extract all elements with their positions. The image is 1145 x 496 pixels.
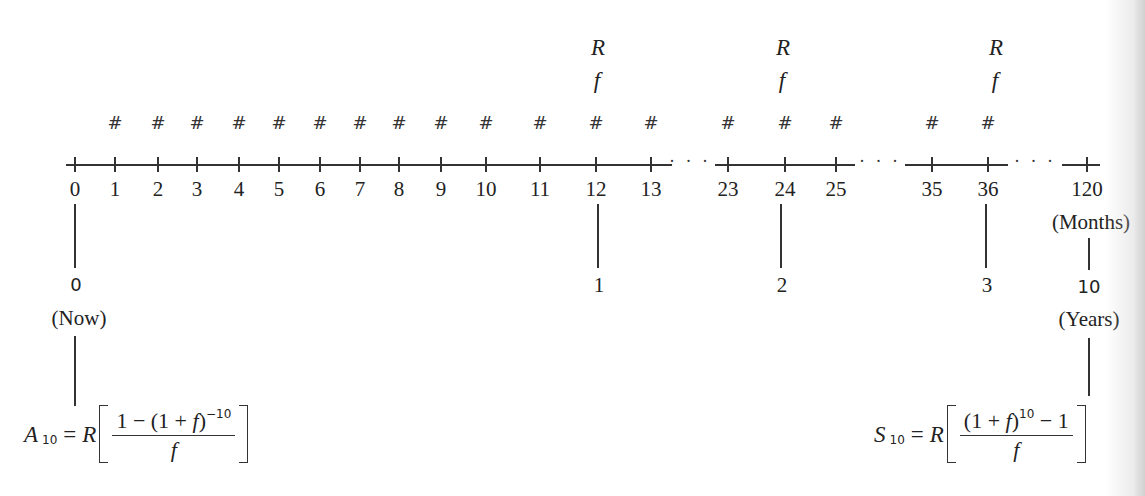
axis-tick [278,157,280,172]
payment-hash-mark: # [150,114,165,132]
month-tick-label: 7 [355,179,366,200]
fv-denominator: f [1013,436,1019,461]
axis-tick [319,157,321,172]
axis-tick [650,157,652,172]
axis-tick [238,157,240,172]
axis-tick [157,157,159,172]
year-label: 1 [594,275,605,296]
month-tick-label: 3 [192,179,203,200]
left-bracket-icon [947,405,956,463]
axis-tick [931,157,933,172]
axis-segment [905,164,1008,166]
month-tick-label: 12 [586,179,607,200]
pv-num-part-b: ) [199,408,206,433]
fv-lhs: S [874,423,886,446]
pv-exponent: −10 [206,407,231,421]
axis-tick [485,157,487,172]
axis-tick [440,157,442,172]
month-tick-label: 13 [641,179,662,200]
axis-tick [74,157,76,172]
end-caption: (Years) [1059,309,1120,330]
axis-tick [114,157,116,172]
pv-num-part-a: 1 − (1 + [116,408,192,433]
payment-hash-mark: # [532,114,547,132]
payment-hash-mark: # [777,114,792,132]
axis-tick [1086,157,1088,172]
start-caption: (Now) [52,308,107,329]
rate-marker-f: f [594,69,600,92]
fv-lhs-subscript: 10 [890,434,905,446]
axis-segment [1062,164,1100,166]
month-tick-label: 35 [922,179,943,200]
pv-fraction: 1 − (1 + f)−10 f [112,408,235,461]
pv-lhs-subscript: 10 [42,434,57,446]
month-tick-label: 2 [153,179,164,200]
month-tick-label: 36 [978,179,999,200]
axis-tick [727,157,729,172]
month-tick-label: 11 [530,179,550,200]
unit-months-label: (Months) [1052,212,1130,233]
month-tick-label: 25 [826,179,847,200]
present-value-formula: A 10 = R 1 − (1 + f)−10 f [24,405,248,463]
month-tick-label: 0 [70,179,81,200]
axis-tick [196,157,198,172]
month-tick-label: 120 [1071,179,1103,200]
ellipsis-gap: · · · [859,152,901,170]
fv-coefficient: R [930,423,944,446]
right-bracket-icon [239,405,248,463]
month-tick-label: 8 [394,179,405,200]
month-tick-label: 5 [274,179,285,200]
payment-hash-mark: # [189,114,204,132]
rate-marker-f: f [779,69,785,92]
payment-hash-mark: # [720,114,735,132]
pv-numerator: 1 − (1 + f)−10 [112,408,235,436]
year-connector [780,204,782,268]
month-tick-label: 1 [110,179,121,200]
axis-tick [987,157,989,172]
axis-tick [595,157,597,172]
end-connector-bottom [1088,338,1090,396]
pv-denominator: f [171,436,177,461]
rate-marker-R: R [591,36,605,59]
ellipsis-gap: · · · [1014,152,1056,170]
fv-num-part-b: ) [1012,408,1019,433]
pv-lhs: A [24,423,38,446]
payment-hash-mark: # [231,114,246,132]
ellipsis-gap: · · · [669,152,711,170]
fv-num-part-a: (1 + [964,408,1006,433]
payment-hash-mark: # [588,114,603,132]
month-tick-label: 4 [234,179,245,200]
month-tick-label: 24 [775,179,796,200]
end-year-label: 10 [1078,278,1101,296]
timeline-diagram: RfRfRf · · ·· · ·· · ·01#2#3#4#5#6#7#8#9… [0,0,1145,496]
pv-coefficient: R [82,423,96,446]
end-connector-top [1088,238,1090,270]
payment-hash-mark: # [391,114,406,132]
payment-hash-mark: # [643,114,658,132]
rate-marker-R: R [776,36,790,59]
payment-hash-mark: # [312,114,327,132]
fv-numerator: (1 + f)10 − 1 [960,408,1073,436]
start-connector-bottom [74,336,76,406]
year-connector [597,204,599,268]
payment-hash-mark: # [433,114,448,132]
payment-hash-mark: # [980,114,995,132]
payment-hash-mark: # [828,114,843,132]
left-bracket-icon [99,405,108,463]
payment-hash-mark: # [924,114,939,132]
fv-exponent: 10 [1019,407,1034,421]
fv-fraction: (1 + f)10 − 1 f [960,408,1073,461]
month-tick-label: 6 [315,179,326,200]
fv-equals: = [911,423,924,446]
future-value-formula: S 10 = R (1 + f)10 − 1 f [874,405,1086,463]
payment-hash-mark: # [352,114,367,132]
axis-tick [539,157,541,172]
pv-equals: = [63,423,76,446]
axis-tick [398,157,400,172]
year-label: 3 [982,275,993,296]
axis-tick [359,157,361,172]
start-year-label: 0 [70,276,81,294]
month-tick-label: 23 [718,179,739,200]
fv-num-part-c: − 1 [1034,408,1068,433]
axis-tick [784,157,786,172]
